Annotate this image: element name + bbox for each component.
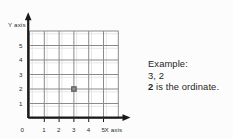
figure-page: Y axis X axis 0 1 2 3 4 5 1 2 3 4 5 Exam…: [0, 0, 233, 139]
y-axis-label: Y axis: [8, 21, 26, 28]
y-tick-label-3: 3: [19, 71, 23, 78]
x-axis-label: X axis: [105, 126, 123, 133]
note-line-ordinate: 2 is the ordinate.: [148, 81, 232, 93]
x-tick-label-5: 5: [102, 126, 106, 133]
y-tick-label-2: 2: [19, 85, 23, 92]
x-tick-label-4: 4: [87, 126, 91, 133]
x-tick-label-2: 2: [57, 126, 61, 133]
x-tick-label-3: 3: [72, 126, 76, 133]
example-note: Example: 3, 2 2 is the ordinate.: [148, 58, 232, 93]
y-tick-label-5: 5: [19, 42, 23, 49]
ordinate-description: is the ordinate.: [153, 81, 219, 92]
plotted-point-marker: [71, 86, 77, 92]
origin-tick-label: 0: [21, 126, 25, 133]
y-tick-label-4: 4: [19, 56, 23, 63]
note-line-example: Example:: [148, 58, 232, 70]
x-tick-label-1: 1: [42, 126, 46, 133]
note-line-coordinates: 3, 2: [148, 70, 232, 82]
y-tick-label-1: 1: [19, 100, 23, 107]
